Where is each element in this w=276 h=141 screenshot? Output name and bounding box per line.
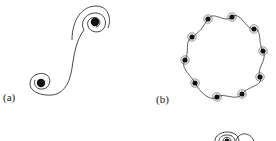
vortex-core-a-top — [91, 18, 99, 26]
panel-a — [30, 6, 110, 95]
panel-label-a: (a) — [3, 92, 15, 103]
figure-canvas — [0, 0, 276, 141]
vortex-core-a-bottom — [37, 79, 45, 87]
filament-a-top-arc — [72, 6, 110, 40]
panel-c-partial — [215, 132, 254, 141]
panel-b — [181, 13, 267, 101]
vortex-rings-b — [181, 13, 267, 101]
panel-label-b: (b) — [156, 94, 169, 105]
vortex-figure: (a) (b) — [0, 0, 276, 141]
